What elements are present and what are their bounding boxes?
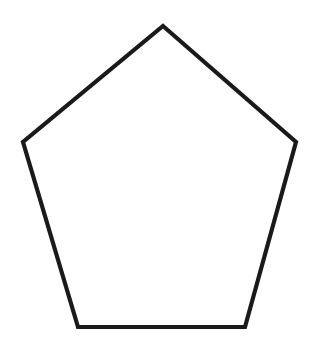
drawing-canvas xyxy=(0,0,315,341)
canvas-background xyxy=(0,0,315,341)
pentagon-figure xyxy=(0,0,315,341)
